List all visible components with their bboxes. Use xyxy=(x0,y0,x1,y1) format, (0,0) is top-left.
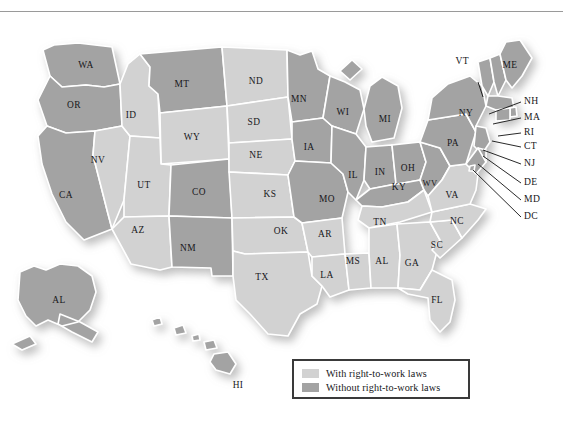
state-IA xyxy=(292,118,332,163)
leader-line-RI xyxy=(498,133,521,136)
state-label-ID: ID xyxy=(126,110,137,120)
state-label-MS: MS xyxy=(346,256,360,266)
state-AZ xyxy=(112,216,172,270)
callout-label-CT: CT xyxy=(524,140,537,151)
state-label-OK: OK xyxy=(274,226,288,236)
state-label-CO: CO xyxy=(192,187,206,197)
map-legend: With right-to-work laws Without right-to… xyxy=(292,359,470,399)
header-ghost-text xyxy=(4,0,234,9)
figure-right-to-work-map: WA OR CA NV ID MT WY UT AZ CO NM ND SD N… xyxy=(0,0,563,431)
state-label-SC: SC xyxy=(431,240,443,250)
state-DC xyxy=(469,165,475,171)
state-label-TX: TX xyxy=(255,272,268,282)
state-label-AL: AL xyxy=(375,256,388,266)
legend-swatch-without-rtw xyxy=(302,383,319,392)
leader-line-CT xyxy=(492,141,521,147)
state-label-VA: VA xyxy=(445,190,458,200)
state-label-AZ: AZ xyxy=(131,225,144,235)
state-label-CA: CA xyxy=(59,190,73,200)
legend-item-with-rtw: With right-to-work laws xyxy=(302,366,460,380)
state-label-IL: IL xyxy=(348,170,358,180)
legend-swatch-with-rtw xyxy=(302,369,319,378)
state-label-MN: MN xyxy=(291,94,307,104)
state-NM xyxy=(169,216,233,276)
state-label-WA: WA xyxy=(78,60,93,70)
state-CT xyxy=(496,108,510,121)
state-label-OR: OR xyxy=(67,100,81,110)
state-HI-inset xyxy=(152,317,236,374)
state-label-HI-inset: HI xyxy=(233,380,244,390)
state-label-NY: NY xyxy=(459,108,473,118)
callout-label-DE: DE xyxy=(524,176,538,187)
legend-item-without-rtw: Without right-to-work laws xyxy=(302,380,460,394)
state-label-MO: MO xyxy=(319,194,335,204)
state-TX xyxy=(233,251,322,336)
legend-label-with-rtw: With right-to-work laws xyxy=(326,368,427,379)
state-label-MT: MT xyxy=(175,79,190,89)
state-label-GA: GA xyxy=(405,258,419,268)
state-label-OH: OH xyxy=(401,163,415,173)
state-label-WI: WI xyxy=(337,107,350,117)
state-RI xyxy=(510,107,517,117)
state-label-MI: MI xyxy=(379,114,391,124)
state-OK xyxy=(232,217,308,254)
state-label-IA: IA xyxy=(304,142,315,152)
leader-line-MD xyxy=(478,164,521,200)
state-label-AR: AR xyxy=(318,229,332,239)
state-label-SD: SD xyxy=(248,117,261,127)
state-KS xyxy=(229,172,294,218)
state-label-NC: NC xyxy=(450,216,464,226)
state-label-IN: IN xyxy=(375,167,386,177)
callout-label-MD: MD xyxy=(524,193,540,204)
state-label-UT: UT xyxy=(137,180,150,190)
state-label-NV: NV xyxy=(91,155,105,165)
callout-label-MA: MA xyxy=(524,111,540,122)
state-label-TN: TN xyxy=(373,217,386,227)
callout-label-NJ: NJ xyxy=(524,157,535,168)
leader-line-NJ xyxy=(483,150,521,164)
us-map-svg: WA OR CA NV ID MT WY UT AZ CO NM ND SD N… xyxy=(0,14,563,431)
state-label-KY: KY xyxy=(392,182,406,192)
state-label-ND: ND xyxy=(249,76,263,86)
callout-label-NH: NH xyxy=(524,95,539,106)
state-label-NE: NE xyxy=(249,150,262,160)
state-label-PA: PA xyxy=(447,138,459,148)
state-label-ME: ME xyxy=(503,60,518,70)
callout-label-RI: RI xyxy=(524,126,534,137)
state-AK-inset xyxy=(12,264,98,350)
callout-label-DC: DC xyxy=(524,210,538,221)
us-map-container: WA OR CA NV ID MT WY UT AZ CO NM ND SD N… xyxy=(0,14,563,431)
state-label-WY: WY xyxy=(184,132,200,142)
state-label-WV: WV xyxy=(422,178,438,188)
state-label-FL: FL xyxy=(431,295,443,305)
state-label-KS: KS xyxy=(264,189,277,199)
callout-label-VT: VT xyxy=(455,55,469,66)
state-label-NM: NM xyxy=(180,243,196,253)
header-rule xyxy=(0,11,563,12)
leader-line-DE xyxy=(483,156,521,183)
legend-label-without-rtw: Without right-to-work laws xyxy=(326,382,440,393)
state-label-AK-inset: AL xyxy=(52,295,65,305)
state-label-LA: LA xyxy=(320,270,333,280)
